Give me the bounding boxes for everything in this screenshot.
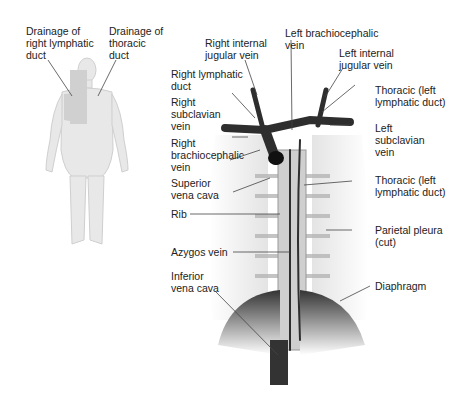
body-left-arm xyxy=(46,94,62,172)
label-inferior-vena-cava: Inferior vena cava xyxy=(171,270,219,294)
label-superior-vena-cava: Superior vena cava xyxy=(171,177,219,201)
human-body-figure xyxy=(46,58,128,244)
label-drainage-thoracic: Drainage of thoracic duct xyxy=(109,25,163,61)
label-drainage-right-lymphatic: Drainage of right lymphatic duct xyxy=(26,25,94,61)
label-azygos-vein: Azygos vein xyxy=(171,246,228,258)
label-thoracic-duct-lower: Thoracic (left lymphatic duct) xyxy=(375,174,446,198)
label-left-internal-jugular-vein: Left internal jugular vein xyxy=(339,47,394,71)
label-right-brachiocephalic-vein: Right brachiocephalic vein xyxy=(171,137,244,173)
label-diaphragm: Diaphragm xyxy=(375,280,426,292)
label-rib: Rib xyxy=(171,208,187,220)
label-right-lymphatic-duct: Right lymphatic duct xyxy=(171,68,243,92)
label-right-internal-jugular-vein: Right internal jugular vein xyxy=(205,37,267,61)
label-right-subclavian-vein: Right subclavian vein xyxy=(171,96,221,132)
drainage-right-region xyxy=(64,70,87,124)
body-right-arm xyxy=(112,94,128,172)
body-right-leg xyxy=(88,176,104,244)
label-thoracic-duct-upper: Thoracic (left lymphatic duct) xyxy=(375,84,446,108)
thorax-illustration xyxy=(209,90,368,385)
label-left-subclavian-vein: Left subclavian vein xyxy=(375,122,425,158)
inferior-vena-cava xyxy=(270,340,288,385)
superior-vena-cava xyxy=(268,151,284,165)
right-lung-bg xyxy=(312,135,368,320)
label-parietal-pleura: Parietal pleura (cut) xyxy=(375,224,443,248)
body-left-leg xyxy=(70,176,86,244)
